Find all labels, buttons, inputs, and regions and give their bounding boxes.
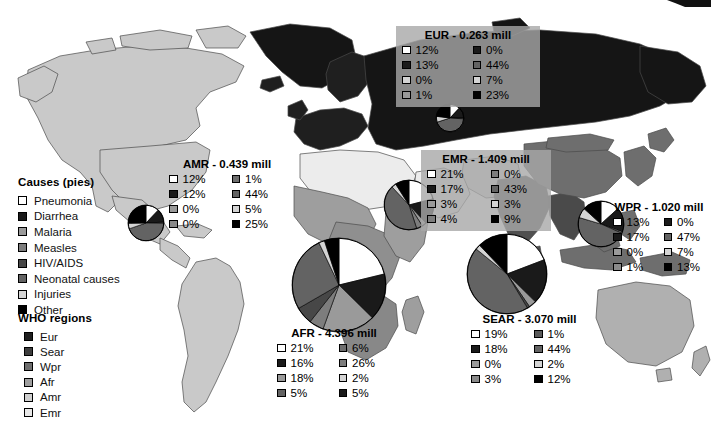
swatch-icon <box>402 61 411 70</box>
legend-who-regions: WHO regions Eur Sear Wpr Afr Amr <box>18 312 92 420</box>
swatch-icon <box>471 375 480 384</box>
infobox-emr: EMR - 1.409 mill 21% 0% 17% 43% 3% 3% 4%… <box>421 150 551 231</box>
swatch-icon <box>473 46 482 55</box>
value-cell: 18% <box>277 371 330 385</box>
value-text: 0% <box>504 168 521 180</box>
swatch-icon <box>427 215 436 224</box>
value-cell: 2% <box>534 357 588 371</box>
swatch-icon <box>664 218 673 227</box>
value-cell: 43% <box>491 182 546 196</box>
infobox-eur-values: 12% 0% 13% 44% 0% 7% 1% 23% <box>402 43 534 102</box>
swatch-icon <box>339 344 348 353</box>
swatch-icon <box>613 248 622 257</box>
legend-label-eur: Eur <box>40 331 58 343</box>
value-cell: 25% <box>232 217 286 231</box>
swatch-icon <box>664 263 673 272</box>
value-text: 0% <box>627 246 644 258</box>
landmass-tasmania <box>656 368 672 382</box>
legend-item-sear: Sear <box>18 344 92 359</box>
infobox-eur: EUR - 0.263 mill 12% 0% 13% 44% 0% 7% 1%… <box>396 26 540 107</box>
legend-regions-title: WHO regions <box>18 312 92 324</box>
value-text: 1% <box>627 261 644 273</box>
value-text: 18% <box>291 372 314 384</box>
legend-label-hivaids: HIV/AIDS <box>34 257 83 269</box>
value-cell: 0% <box>169 202 223 216</box>
value-text: 0% <box>485 358 502 370</box>
value-text: 5% <box>291 387 308 399</box>
value-cell: 13% <box>402 58 464 72</box>
swatch-icon <box>277 359 286 368</box>
swatch-region-afr-icon <box>24 378 33 387</box>
value-text: 3% <box>485 373 502 385</box>
value-cell: 9% <box>491 212 546 226</box>
legend-item-emr: Emr <box>18 405 92 420</box>
value-cell: 17% <box>613 230 655 244</box>
infobox-sear: SEAR - 3.070 mill 19% 1% 18% 44% 0% 2% 3… <box>465 310 594 391</box>
swatch-icon <box>427 185 436 194</box>
legend-label-measles: Measles <box>34 242 77 254</box>
value-cell: 12% <box>169 187 223 201</box>
swatch-hivaids-icon <box>18 259 27 268</box>
value-cell: 47% <box>664 230 706 244</box>
value-text: 16% <box>291 357 314 369</box>
pie-chart-eur <box>436 104 464 132</box>
legend-label-neonatal: Neonatal causes <box>34 273 120 285</box>
pie-chart-amr <box>128 205 164 241</box>
swatch-icon <box>534 375 543 384</box>
legend-causes-items: Pneumonia Diarrhea Malaria Measles HIV/A… <box>18 193 120 318</box>
swatch-icon <box>473 76 482 85</box>
swatch-icon <box>402 76 411 85</box>
value-text: 12% <box>183 188 206 200</box>
legend-label-wpr: Wpr <box>40 361 61 373</box>
value-text: 7% <box>677 246 694 258</box>
value-cell: 1% <box>232 172 286 186</box>
value-cell: 2% <box>339 371 392 385</box>
value-cell: 13% <box>664 260 706 274</box>
value-text: 1% <box>416 89 433 101</box>
legend-item-diarrhea: Diarrhea <box>18 209 120 225</box>
value-cell: 3% <box>471 372 525 386</box>
value-cell: 12% <box>402 43 464 57</box>
legend-label-afr: Afr <box>40 376 55 388</box>
value-cell: 5% <box>277 386 330 400</box>
value-cell: 0% <box>491 167 546 181</box>
swatch-icon <box>169 205 178 214</box>
value-cell: 12% <box>534 372 588 386</box>
value-cell: 7% <box>664 245 706 259</box>
value-text: 1% <box>548 328 565 340</box>
infobox-sear-title: SEAR - 3.070 mill <box>471 313 588 325</box>
value-text: 0% <box>183 218 200 230</box>
legend-item-pneumonia: Pneumonia <box>18 193 120 209</box>
value-text: 5% <box>352 387 369 399</box>
value-text: 4% <box>441 213 458 225</box>
value-cell: 16% <box>277 356 330 370</box>
swatch-icon <box>169 220 178 229</box>
swatch-icon <box>664 248 673 257</box>
value-cell: 23% <box>473 88 535 102</box>
infobox-amr-title: AMR - 0.439 mill <box>169 158 285 170</box>
value-text: 44% <box>548 343 571 355</box>
swatch-icon <box>491 185 500 194</box>
swatch-region-amr-icon <box>24 393 33 402</box>
swatch-icon <box>402 91 411 100</box>
swatch-measles-icon <box>18 243 27 252</box>
pie-chart-sear <box>467 234 547 314</box>
legend-item-malaria: Malaria <box>18 224 120 240</box>
swatch-icon <box>277 374 286 383</box>
value-cell: 19% <box>471 327 525 341</box>
legend-label-amr: Amr <box>40 391 61 403</box>
value-cell: 12% <box>169 172 223 186</box>
legend-item-measles: Measles <box>18 240 120 256</box>
swatch-icon <box>473 91 482 100</box>
swatch-malaria-icon <box>18 227 27 236</box>
legend-regions-items: Eur Sear Wpr Afr Amr Emr <box>18 329 92 420</box>
swatch-icon <box>473 61 482 70</box>
swatch-injuries-icon <box>18 290 27 299</box>
value-text: 23% <box>486 89 509 101</box>
pie-chart-afr <box>292 238 386 332</box>
swatch-icon <box>427 170 436 179</box>
swatch-icon <box>613 263 622 272</box>
value-text: 0% <box>486 44 503 56</box>
value-text: 13% <box>677 261 700 273</box>
value-cell: 21% <box>427 167 482 181</box>
